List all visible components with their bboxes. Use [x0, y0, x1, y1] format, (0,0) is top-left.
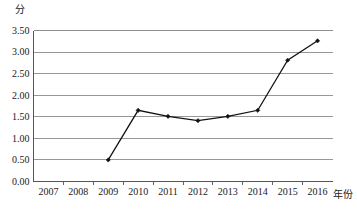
x-axis-tick-label: 2013	[218, 186, 238, 197]
data-point-marker	[166, 114, 170, 118]
x-axis-tick-label: 2012	[188, 186, 208, 197]
data-series	[106, 39, 320, 162]
axis-lines	[34, 31, 333, 182]
x-axis-tick-label: 2010	[128, 186, 148, 197]
y-axis-tick-labels: 0.000.501.001.502.002.503.003.50	[12, 25, 30, 187]
x-axis-tick-label: 2011	[158, 186, 178, 197]
chart-plot-area: 0.000.501.001.502.002.503.003.50 2007200…	[0, 0, 357, 218]
x-axis-tick-label: 2007	[38, 186, 58, 197]
data-point-marker	[196, 119, 200, 123]
x-axis-tick-label: 2015	[278, 186, 298, 197]
x-axis-tick-labels: 2007200820092010201120122013201420152016	[38, 186, 327, 197]
line-chart: 分 年份 0.000.501.001.502.002.503.003.50 20…	[0, 0, 357, 218]
y-axis-tick-label: 2.50	[12, 68, 30, 79]
y-axis-tick-label: 0.50	[12, 154, 30, 165]
series-line	[108, 41, 317, 160]
x-axis-tick-label: 2016	[308, 186, 328, 197]
y-axis-tick-label: 1.00	[12, 133, 30, 144]
gridlines	[34, 31, 333, 160]
x-axis-tick-label: 2009	[98, 186, 118, 197]
y-axis-tick-label: 3.50	[12, 25, 30, 36]
y-axis-tick-label: 0.00	[12, 176, 30, 187]
y-axis-tick-label: 3.00	[12, 46, 30, 57]
x-axis-tick-marks	[63, 182, 302, 186]
x-axis-tick-label: 2008	[68, 186, 88, 197]
y-axis-tick-label: 1.50	[12, 111, 30, 122]
y-axis-tick-label: 2.00	[12, 90, 30, 101]
data-point-marker	[226, 114, 230, 118]
x-axis-tick-label: 2014	[248, 186, 268, 197]
